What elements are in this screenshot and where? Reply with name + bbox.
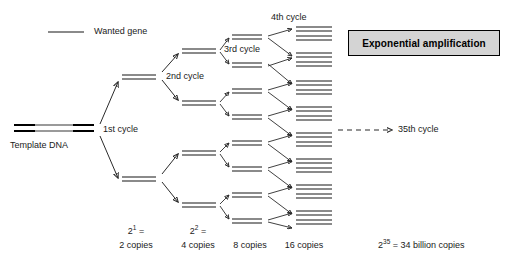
strand: [232, 144, 262, 146]
strand: [296, 210, 332, 212]
strand: [296, 84, 332, 86]
exponential-amplification-label: Exponential amplification: [362, 38, 486, 49]
cycle4-bundle-1: [296, 26, 332, 46]
cycle1-duplex-b: [122, 176, 156, 182]
strand: [232, 66, 262, 68]
strand: [232, 140, 262, 142]
strand: [182, 48, 216, 50]
strand: [182, 100, 216, 102]
cycle4-bundle-5: [296, 132, 332, 152]
exponential-amplification-callout: Exponential amplification: [348, 30, 500, 56]
strand: [182, 150, 216, 152]
wanted-gene-line-icon: [48, 31, 84, 33]
strand: [122, 176, 156, 178]
cycle1-duplex-a: [122, 74, 156, 80]
strand: [296, 119, 332, 121]
cycle2-duplex-a: [182, 48, 216, 54]
count-2-exponent: 2: [195, 224, 199, 231]
cycle3-duplex-3: [232, 88, 262, 94]
count-3-copies: 8 copies: [226, 240, 274, 251]
strand: [296, 65, 332, 67]
strand: [182, 202, 216, 204]
cycle2-duplex-b: [182, 100, 216, 106]
strand: [296, 145, 332, 147]
strand: [122, 78, 156, 80]
cycle3-duplex-4: [232, 114, 262, 120]
strand: [296, 61, 332, 63]
template-dna-label: Template DNA: [10, 140, 68, 151]
count-4-copies: 16 copies: [278, 240, 330, 251]
cycle-3-label: 3rd cycle: [224, 44, 260, 55]
count-2-equals: =: [201, 226, 206, 236]
strand: [232, 114, 262, 116]
strand: [296, 219, 332, 221]
strand: [296, 171, 332, 173]
cycle3-duplex-5: [232, 140, 262, 146]
cycle2-duplex-d: [182, 202, 216, 208]
strand: [296, 26, 332, 28]
strand: [182, 104, 216, 106]
strand: [232, 222, 262, 224]
cycle4-bundle-8: [296, 210, 332, 230]
pcr-amplification-diagram: Wanted gene Template DNA: [0, 0, 508, 262]
strand: [182, 52, 216, 54]
strand: [296, 89, 332, 91]
strand: [232, 38, 262, 40]
cycle4-bundle-7: [296, 184, 332, 204]
strand: [296, 52, 332, 54]
strand: [232, 62, 262, 64]
strand: [296, 184, 332, 186]
cycle3-duplex-6: [232, 166, 262, 172]
final-count-text: = 34 billion copies: [393, 240, 465, 250]
strand: [232, 88, 262, 90]
count-1-copies: 2 copies: [114, 240, 158, 251]
template-strand-top: [14, 124, 94, 126]
cycle3-duplex-8: [232, 218, 262, 224]
cycle2-duplex-c: [182, 150, 216, 156]
strand: [182, 154, 216, 156]
cycle3-duplex-2: [232, 62, 262, 68]
cycle4-bundle-6: [296, 158, 332, 178]
cycle-35-label: 35th cycle: [398, 124, 439, 135]
strand: [232, 218, 262, 220]
strand: [296, 193, 332, 195]
strand: [296, 188, 332, 190]
strand: [296, 115, 332, 117]
cycle4-bundle-4: [296, 106, 332, 126]
strand: [296, 30, 332, 32]
strand: [296, 106, 332, 108]
cycle3-duplex-1: [232, 34, 262, 40]
strand: [296, 35, 332, 37]
count-1-power: 21 =: [114, 226, 158, 237]
strand: [296, 136, 332, 138]
strand: [232, 34, 262, 36]
strand: [296, 214, 332, 216]
cycle-2-label: 2nd cycle: [166, 71, 204, 82]
strand: [296, 56, 332, 58]
strand: [232, 192, 262, 194]
final-count-exponent: 35: [383, 238, 390, 245]
count-2-copies: 4 copies: [176, 240, 220, 251]
strand: [296, 132, 332, 134]
strand: [296, 93, 332, 95]
legend-label: Wanted gene: [94, 26, 147, 37]
strand: [296, 39, 332, 41]
strand: [232, 170, 262, 172]
final-count-label: 235 = 34 billion copies: [378, 240, 465, 251]
strand: [232, 196, 262, 198]
template-dna-duplex: [14, 124, 94, 132]
cycle4-bundle-3: [296, 80, 332, 100]
strand: [296, 162, 332, 164]
strand: [296, 158, 332, 160]
strand: [296, 80, 332, 82]
count-1-equals: =: [139, 226, 144, 236]
strand: [296, 167, 332, 169]
count-2-power: 22 =: [176, 226, 220, 237]
cycle4-bundle-2: [296, 52, 332, 72]
strand: [296, 141, 332, 143]
strand: [296, 197, 332, 199]
strand: [296, 223, 332, 225]
strand: [232, 118, 262, 120]
strand: [182, 206, 216, 208]
cycle-1-label: 1st cycle: [103, 124, 138, 135]
